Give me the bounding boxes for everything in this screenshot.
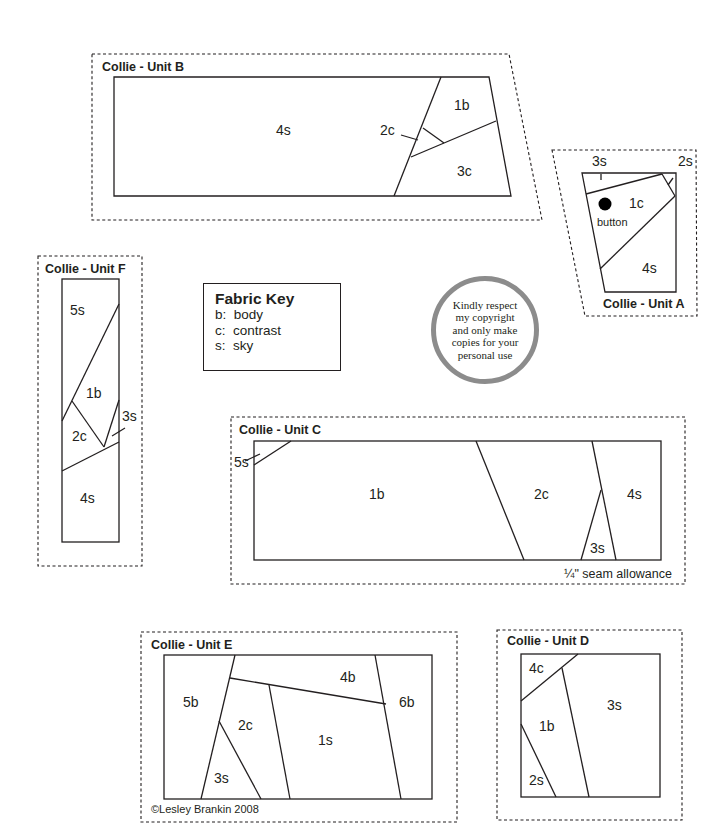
unit-f-title: Collie - Unit F [45, 263, 126, 276]
unit-d-piece-4c: 4c [529, 661, 544, 675]
unit-a-piece-3s: 3s [592, 154, 607, 168]
fabric-key: Fabric Key b: body c: contrast s: sky [203, 283, 341, 371]
unit-e-cutline [141, 632, 457, 822]
unit-a-title: Collie - Unit A [603, 298, 684, 311]
unit-a-cutline [552, 150, 697, 316]
stamp-line-1: Kindly respect [453, 299, 517, 311]
fabric-key-item-sky: s: sky [215, 338, 340, 354]
unit-e-piece-5b: 5b [183, 695, 199, 709]
stamp-line-5: personal use [458, 349, 513, 361]
unit-c-piece-3s: 3s [590, 541, 605, 555]
unit-b-piece-1b: 1b [454, 98, 470, 112]
stamp-line-4: copies for your [452, 336, 519, 348]
unit-e-piece-4b: 4b [340, 670, 356, 684]
unit-b-piece-3c: 3c [457, 164, 472, 178]
unit-d-piece-1b: 1b [539, 719, 555, 733]
seam-allowance-note: ¼" seam allowance [564, 568, 672, 581]
unit-e-piece-2c: 2c [238, 718, 253, 732]
unit-a-button-label: button [597, 217, 628, 228]
unit-e-outline [164, 655, 432, 799]
unit-e-piece-6b: 6b [399, 695, 415, 709]
unit-d-piece-3s: 3s [607, 698, 622, 712]
unit-a-piece-2s: 2s [678, 154, 693, 168]
unit-e-title: Collie - Unit E [151, 639, 232, 652]
unit-b-outline [114, 77, 511, 196]
unit-d-piece-2s: 2s [529, 773, 544, 787]
unit-f-piece-2c: 2c [72, 429, 87, 443]
unit-b-cutline [92, 54, 542, 220]
fabric-key-title: Fabric Key [215, 290, 340, 307]
unit-f-piece-5s: 5s [70, 303, 85, 317]
unit-d-title: Collie - Unit D [507, 635, 589, 648]
unit-c-piece-4s: 4s [627, 487, 642, 501]
unit-b-title: Collie - Unit B [102, 61, 184, 74]
unit-c-title: Collie - Unit C [239, 424, 321, 437]
unit-f-piece-3s: 3s [122, 409, 137, 423]
fabric-key-item-body: b: body [215, 307, 340, 323]
fabric-key-item-contrast: c: contrast [215, 323, 340, 339]
unit-d-cutline [497, 630, 682, 820]
unit-c-piece-5s: 5s [234, 455, 249, 469]
unit-e-piece-1s: 1s [318, 733, 333, 747]
unit-f-piece-4s: 4s [80, 491, 95, 505]
button-marker [599, 198, 612, 211]
unit-f-piece-1b: 1b [86, 386, 102, 400]
stamp-line-3: and only make [453, 324, 518, 336]
stamp-line-2: my copyright [456, 311, 515, 323]
unit-c-piece-2c: 2c [534, 487, 549, 501]
unit-c-cutline [231, 417, 685, 584]
unit-e-piece-3s: 3s [214, 771, 229, 785]
unit-a-piece-4s: 4s [642, 261, 657, 275]
copyright-text: ©Lesley Brankin 2008 [151, 804, 259, 815]
unit-b-piece-2c: 2c [380, 123, 395, 137]
unit-c-piece-1b: 1b [369, 487, 385, 501]
unit-b-piece-4s: 4s [276, 123, 291, 137]
copyright-stamp: Kindly respect my copyright and only mak… [431, 276, 539, 384]
unit-a-piece-1c: 1c [629, 196, 644, 210]
